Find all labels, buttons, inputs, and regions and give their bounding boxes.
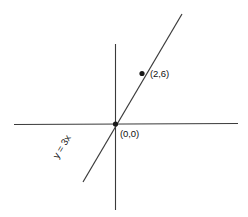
function-line — [83, 14, 182, 182]
origin-point-marker — [113, 121, 118, 126]
plotted-point-marker — [139, 71, 144, 76]
point-label: (2,6) — [150, 68, 169, 79]
origin-label: (0,0) — [120, 128, 139, 139]
graph-figure: (2,6) (0,0) y = 3x — [0, 0, 248, 217]
x-axis-line — [14, 124, 238, 125]
coordinate-plane-svg — [0, 0, 248, 217]
